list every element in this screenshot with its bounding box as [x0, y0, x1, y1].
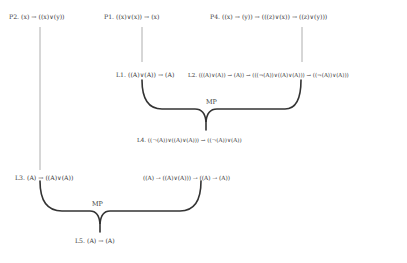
mp-brace-2: [40, 181, 201, 224]
rule-label-mp-1: MP: [206, 98, 217, 106]
lemma-l4: L4. ((¬(A))∨((A)∨(A))) → ((¬(A))∨(A)): [137, 136, 242, 144]
lemma-l2: L2. (((A)∨(A)) → (A)) → (((¬(A))∨((A)∨(A…: [188, 71, 349, 79]
rule-label-mp-2: MP: [92, 200, 103, 208]
proof-tree-connectors: [0, 0, 407, 263]
mp-brace-1: [142, 80, 301, 122]
premise-p2: P2. (x) → ((x)∨(y)): [9, 13, 64, 21]
lemma-l5: L5. (A) → (A): [75, 237, 115, 245]
premise-p1: P1. ((x)∨(x)) → (x): [104, 13, 159, 21]
lemma-l1: L1. ((A)∨(A)) → (A): [116, 71, 174, 79]
premise-p4: P4. ((x) → (y)) → (((z)∨(x)) → ((z)∨(y))…: [210, 13, 327, 21]
intermediate-formula: ((A) → ((A)∨(A))) → ((A) → (A)): [143, 174, 230, 182]
lemma-l3: L3. (A) → ((A)∨(A)): [15, 174, 73, 182]
